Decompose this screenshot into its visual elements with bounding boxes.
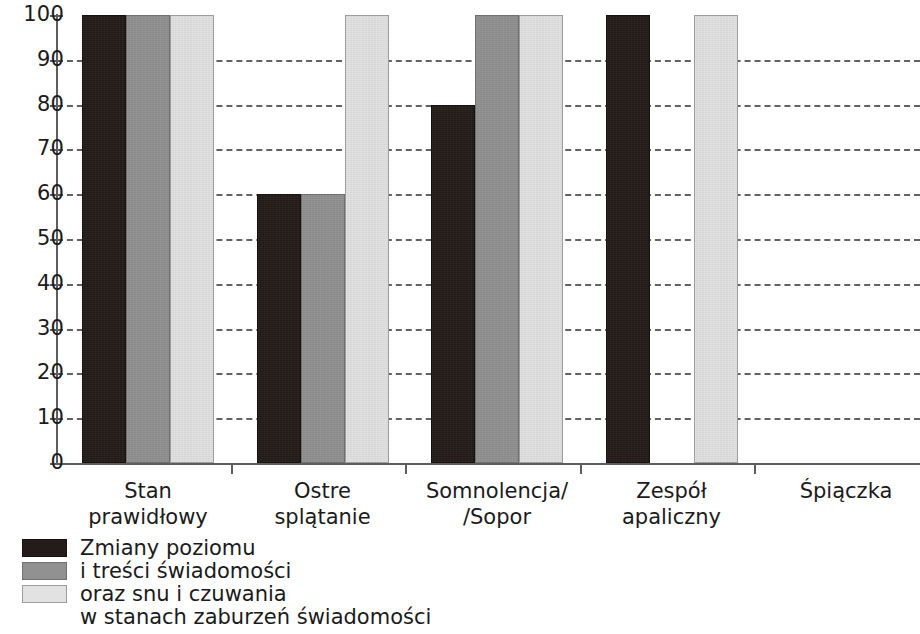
bar-1-2 bbox=[345, 15, 389, 463]
y-tick-label-10: 10 bbox=[18, 407, 64, 428]
legend-row-1: i treści świadomości bbox=[22, 560, 912, 583]
category-label-line2: /Sopor bbox=[397, 504, 597, 530]
legend-swatch-2 bbox=[22, 585, 67, 603]
legend-caption-line-0: Zmiany poziomu bbox=[80, 537, 256, 560]
y-tick-label-0: 0 bbox=[18, 452, 64, 473]
category-label-line1: Śpiączka bbox=[800, 479, 893, 503]
category-label-line2: apaliczny bbox=[572, 504, 772, 530]
category-label-1: Ostresplątanie bbox=[223, 478, 423, 530]
legend-caption-line-1: i treści świadomości bbox=[80, 560, 291, 583]
y-tick-label-20: 20 bbox=[18, 362, 64, 383]
category-label-line1: Stan bbox=[124, 479, 172, 503]
y-tick-label-30: 30 bbox=[18, 318, 64, 339]
y-tick-label-70: 70 bbox=[18, 138, 64, 159]
bar-2-2 bbox=[519, 15, 563, 463]
bar-1-1 bbox=[301, 194, 345, 463]
x-tick-mark-1 bbox=[231, 463, 233, 474]
category-label-line1: Somnolencja/ bbox=[426, 479, 568, 503]
legend-swatch-0 bbox=[22, 539, 67, 557]
bar-1-0 bbox=[257, 194, 301, 463]
legend-caption-line-3: w stanach zaburzeń świadomości bbox=[80, 606, 431, 629]
bar-0-1 bbox=[126, 15, 170, 463]
x-axis-line bbox=[56, 463, 920, 465]
y-tick-label-100: 100 bbox=[18, 4, 64, 25]
y-tick-label-60: 60 bbox=[18, 183, 64, 204]
bar-0-2 bbox=[170, 15, 214, 463]
bar-chart-figure: 0102030405060708090100 StanprawidłowyOst… bbox=[0, 0, 920, 634]
category-label-3: Zespółapaliczny bbox=[572, 478, 772, 530]
bar-3-2 bbox=[694, 15, 738, 463]
bar-0-0 bbox=[82, 15, 126, 463]
category-label-line1: Ostre bbox=[294, 479, 351, 503]
chart-legend: Zmiany poziomui treści świadomościoraz s… bbox=[22, 537, 912, 633]
category-label-line2: splątanie bbox=[223, 504, 423, 530]
x-tick-mark-3 bbox=[580, 463, 582, 474]
y-tick-label-50: 50 bbox=[18, 228, 64, 249]
category-label-4: Śpiączka bbox=[746, 478, 920, 504]
plot-area bbox=[57, 15, 920, 463]
bar-2-1 bbox=[475, 15, 519, 463]
legend-row-3: w stanach zaburzeń świadomości bbox=[22, 606, 912, 629]
category-label-0: Stanprawidłowy bbox=[48, 478, 248, 530]
y-tick-label-80: 80 bbox=[18, 94, 64, 115]
bar-3-0 bbox=[606, 15, 650, 463]
bar-2-0 bbox=[431, 105, 475, 463]
y-tick-label-90: 90 bbox=[18, 49, 64, 70]
legend-swatch-1 bbox=[22, 562, 67, 580]
legend-row-0: Zmiany poziomu bbox=[22, 537, 912, 560]
x-tick-mark-2 bbox=[405, 463, 407, 474]
y-tick-label-40: 40 bbox=[18, 273, 64, 294]
x-tick-mark-4 bbox=[754, 463, 756, 474]
category-label-2: Somnolencja//Sopor bbox=[397, 478, 597, 530]
category-label-line1: Zespół bbox=[636, 479, 706, 503]
legend-row-2: oraz snu i czuwania bbox=[22, 583, 912, 606]
category-label-line2: prawidłowy bbox=[48, 504, 248, 530]
legend-caption-line-2: oraz snu i czuwania bbox=[80, 583, 287, 606]
